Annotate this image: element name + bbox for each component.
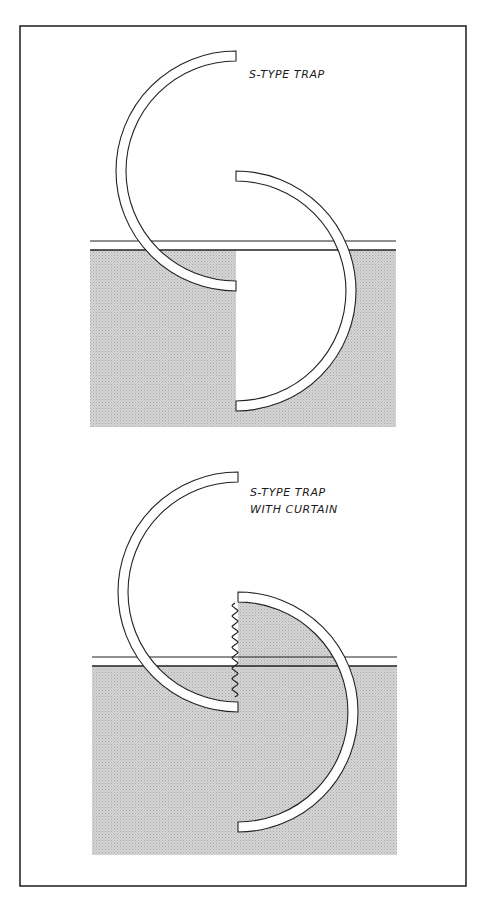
label-s-type-trap: S-TYPE TRAP [249,66,325,83]
label-s-type-trap-with-curtain: S-TYPE TRAP WITH CURTAIN [250,484,338,518]
panel-s-type-trap [90,51,396,427]
label-line: S-TYPE TRAP [249,66,325,83]
label-line: S-TYPE TRAP [250,484,338,501]
label-line: WITH CURTAIN [250,501,338,518]
panel-s-type-trap-with-curtain [92,472,397,855]
diagram-canvas [0,0,487,902]
